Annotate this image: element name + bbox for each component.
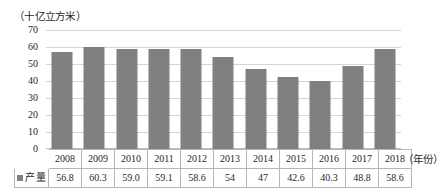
bar-2015 bbox=[278, 77, 299, 149]
table-row-values: 产量 56.860.359.059.158.6544742.640.348.85… bbox=[15, 169, 412, 188]
y-tick-50: 50 bbox=[28, 59, 38, 69]
table-year-2010: 2010 bbox=[115, 150, 148, 169]
legend-label: 产量 bbox=[25, 173, 46, 183]
bar-slot bbox=[240, 30, 272, 149]
bar-2008 bbox=[52, 52, 73, 149]
y-tick-20: 20 bbox=[28, 110, 38, 120]
table-year-2015: 2015 bbox=[280, 150, 313, 169]
bar-slot bbox=[78, 30, 110, 149]
bar-2011 bbox=[148, 49, 169, 149]
table-year-2012: 2012 bbox=[181, 150, 214, 169]
data-table: 2008200920102011201220132014201520162017… bbox=[14, 149, 412, 188]
bar-slot bbox=[336, 30, 368, 149]
bar-slot bbox=[369, 30, 401, 149]
table-year-2014: 2014 bbox=[247, 150, 280, 169]
bar-slot bbox=[207, 30, 239, 149]
table-value-2017: 48.8 bbox=[346, 169, 379, 188]
bar-slot bbox=[175, 30, 207, 149]
y-tick-70: 70 bbox=[28, 25, 38, 35]
x-axis-caption: （年份） bbox=[403, 151, 441, 166]
y-tick-40: 40 bbox=[28, 76, 38, 86]
y-tick-30: 30 bbox=[28, 93, 38, 103]
bar-2014 bbox=[245, 69, 266, 149]
table-value-2018: 58.6 bbox=[379, 169, 412, 188]
table-value-2013: 54 bbox=[214, 169, 247, 188]
table-year-2008: 2008 bbox=[49, 150, 82, 169]
table-value-2009: 60.3 bbox=[82, 169, 115, 188]
legend-cell: 产量 bbox=[15, 169, 49, 188]
bar-slot bbox=[272, 30, 304, 149]
bar-2009 bbox=[84, 47, 105, 150]
y-axis-unit-caption: （十亿立方米） bbox=[14, 8, 86, 23]
table-value-2010: 59.0 bbox=[115, 169, 148, 188]
table-year-2011: 2011 bbox=[148, 150, 181, 169]
bar-2012 bbox=[181, 49, 202, 149]
bar-2018 bbox=[374, 49, 395, 149]
bar-2010 bbox=[116, 49, 137, 149]
table-corner-cell bbox=[15, 150, 49, 169]
bar-slot bbox=[46, 30, 78, 149]
table-value-2015: 42.6 bbox=[280, 169, 313, 188]
bar-slot bbox=[304, 30, 336, 149]
table-value-2011: 59.1 bbox=[148, 169, 181, 188]
table-year-2009: 2009 bbox=[82, 150, 115, 169]
bar-slot bbox=[143, 30, 175, 149]
table-value-2016: 40.3 bbox=[313, 169, 346, 188]
table-value-2014: 47 bbox=[247, 169, 280, 188]
table-row-years: 2008200920102011201220132014201520162017… bbox=[15, 150, 412, 169]
bar-slot bbox=[111, 30, 143, 149]
plot-area bbox=[46, 30, 401, 149]
y-axis-tick-labels: 70 60 50 40 30 20 10 0 bbox=[0, 30, 42, 149]
table-value-2012: 58.6 bbox=[181, 169, 214, 188]
y-tick-10: 10 bbox=[28, 127, 38, 137]
table-year-2016: 2016 bbox=[313, 150, 346, 169]
bar-2017 bbox=[342, 66, 363, 149]
y-tick-60: 60 bbox=[28, 42, 38, 52]
table-year-2013: 2013 bbox=[214, 150, 247, 169]
table-value-2008: 56.8 bbox=[49, 169, 82, 188]
legend-swatch-icon bbox=[17, 175, 23, 181]
bars bbox=[46, 30, 401, 149]
table-year-2017: 2017 bbox=[346, 150, 379, 169]
bar-2016 bbox=[310, 81, 331, 150]
bar-2013 bbox=[213, 57, 234, 149]
